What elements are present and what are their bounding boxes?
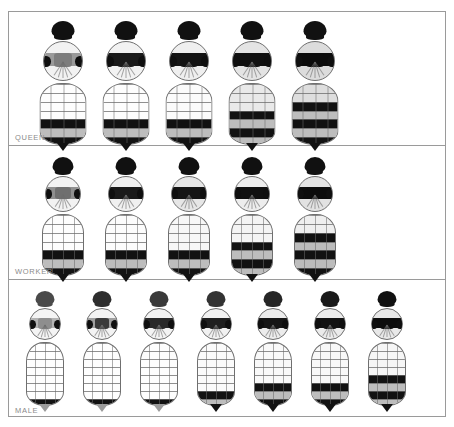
abdomen-rib	[326, 215, 327, 275]
abdomen-rib	[252, 215, 253, 275]
thorax-worker-4	[234, 176, 270, 212]
abdomen-tip-male-4	[210, 404, 222, 412]
thorax-worker-3	[171, 176, 207, 212]
abdomen-male-2	[83, 342, 121, 406]
abdomen-rib	[137, 215, 138, 275]
abdomen-rib	[239, 84, 240, 144]
abdomen-rib	[35, 343, 36, 405]
abdomen-rib	[315, 215, 316, 275]
head-collar-worker-1	[55, 170, 71, 175]
head-collar-queen-3	[180, 35, 198, 40]
figure-plate: QUEEN WORKER MALE	[8, 11, 446, 417]
abdomen-rib	[216, 343, 217, 405]
abdomen-body	[166, 83, 213, 145]
compound-eye-right	[327, 56, 335, 67]
abdomen-rib	[178, 215, 179, 275]
abdomen-rib	[169, 343, 170, 405]
abdomen-worker-2	[105, 214, 147, 276]
abdomen-rib	[159, 343, 160, 405]
head-collar-male-2	[95, 302, 110, 307]
thorax-worker-5	[297, 176, 333, 212]
abdomen-rib	[126, 84, 127, 144]
thorax-male-5	[257, 308, 289, 340]
thorax-queen-1	[43, 41, 83, 81]
abdomen-male-7	[368, 342, 406, 406]
abdomen-tip-male-2	[96, 404, 108, 412]
abdomen-rib	[189, 84, 190, 144]
abdomen-male-1	[26, 342, 64, 406]
abdomen-worker-3	[168, 214, 210, 276]
abdomen-worker-5	[294, 214, 336, 276]
compound-eye-right	[168, 320, 175, 329]
compound-eye-right	[74, 189, 81, 199]
abdomen-rib	[263, 343, 264, 405]
abdomen-rib	[315, 84, 316, 144]
abdomen-tip-male-6	[324, 404, 336, 412]
abdomen-rib	[283, 343, 284, 405]
thorax-queen-3	[169, 41, 209, 81]
caste-label-male: MALE	[15, 406, 38, 415]
abdomen-tip-male-5	[267, 404, 279, 412]
abdomen-rib	[330, 343, 331, 405]
compound-eye-right	[225, 320, 232, 329]
abdomen-male-4	[197, 342, 235, 406]
abdomen-rib	[92, 343, 93, 405]
abdomen-body	[294, 214, 336, 276]
abdomen-body	[231, 214, 273, 276]
specimen-row-queen	[9, 12, 445, 145]
head-collar-male-5	[266, 302, 281, 307]
abdomen-male-6	[311, 342, 349, 406]
thorax-male-2	[86, 308, 118, 340]
compound-eye-right	[396, 320, 403, 329]
head-collar-queen-1	[54, 35, 72, 40]
abdomen-male-5	[254, 342, 292, 406]
head-collar-worker-2	[118, 170, 134, 175]
compound-eye-left	[257, 320, 264, 329]
abdomen-queen-1	[40, 83, 87, 145]
head-collar-queen-5	[306, 35, 324, 40]
thorax-male-7	[371, 308, 403, 340]
abdomen-rib	[252, 84, 253, 144]
abdomen-body	[103, 83, 150, 145]
compound-eye-left	[200, 320, 207, 329]
compound-eye-left	[29, 320, 36, 329]
compound-eye-right	[282, 320, 289, 329]
abdomen-body	[197, 342, 235, 406]
abdomen-rib	[113, 84, 114, 144]
thorax-male-3	[143, 308, 175, 340]
caste-label-queen: QUEEN	[15, 133, 45, 142]
thorax-worker-2	[108, 176, 144, 212]
head-collar-male-1	[38, 302, 53, 307]
specimen-row-male	[9, 280, 445, 418]
abdomen-rib	[200, 215, 201, 275]
abdomen-rib	[52, 215, 53, 275]
compound-eye-left	[314, 320, 321, 329]
head-collar-male-6	[323, 302, 338, 307]
abdomen-rib	[273, 343, 274, 405]
compound-eye-left	[86, 320, 93, 329]
thorax-queen-2	[106, 41, 146, 81]
abdomen-worker-4	[231, 214, 273, 276]
abdomen-body	[105, 214, 147, 276]
abdomen-male-3	[140, 342, 178, 406]
abdomen-rib	[112, 343, 113, 405]
abdomen-body	[83, 342, 121, 406]
abdomen-rib	[340, 343, 341, 405]
abdomen-rib	[202, 84, 203, 144]
thorax-male-4	[200, 308, 232, 340]
head-collar-male-3	[152, 302, 167, 307]
abdomen-rib	[76, 84, 77, 144]
abdomen-tip-male-7	[381, 404, 393, 412]
caste-label-worker: WORKER	[15, 267, 53, 276]
head-collar-queen-2	[117, 35, 135, 40]
compound-eye-right	[111, 320, 118, 329]
compound-eye-right	[263, 189, 270, 199]
abdomen-body	[368, 342, 406, 406]
compound-eye-left	[371, 320, 378, 329]
abdomen-rib	[115, 215, 116, 275]
abdomen-rib	[304, 215, 305, 275]
abdomen-rib	[63, 215, 64, 275]
abdomen-queen-3	[166, 83, 213, 145]
abdomen-rib	[55, 343, 56, 405]
specimen-row-worker	[9, 146, 445, 279]
